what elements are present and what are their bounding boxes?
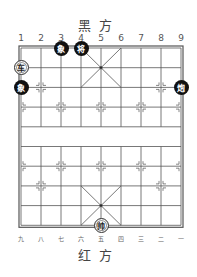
column-number-bottom: 五 bbox=[95, 234, 107, 243]
column-number-bottom: 三 bbox=[135, 234, 147, 243]
piece-black-general[interactable]: 将 bbox=[74, 41, 89, 56]
piece-red-marshal[interactable]: 帅 bbox=[94, 218, 109, 233]
column-number-bottom: 八 bbox=[35, 234, 47, 243]
column-number-bottom: 一 bbox=[175, 234, 187, 243]
column-number-bottom: 六 bbox=[75, 234, 87, 243]
piece-black-elephant-1[interactable]: 象 bbox=[54, 41, 69, 56]
column-number-bottom: 二 bbox=[155, 234, 167, 243]
piece-black-cannon[interactable]: 炮 bbox=[174, 80, 189, 95]
piece-red-chariot[interactable]: 车 bbox=[14, 60, 29, 75]
column-number-bottom: 七 bbox=[55, 234, 67, 243]
column-number-bottom: 九 bbox=[15, 234, 27, 243]
column-number-bottom: 四 bbox=[115, 234, 127, 243]
piece-black-elephant-2[interactable]: 象 bbox=[14, 80, 29, 95]
red-side-label: 红方 bbox=[0, 245, 197, 264]
